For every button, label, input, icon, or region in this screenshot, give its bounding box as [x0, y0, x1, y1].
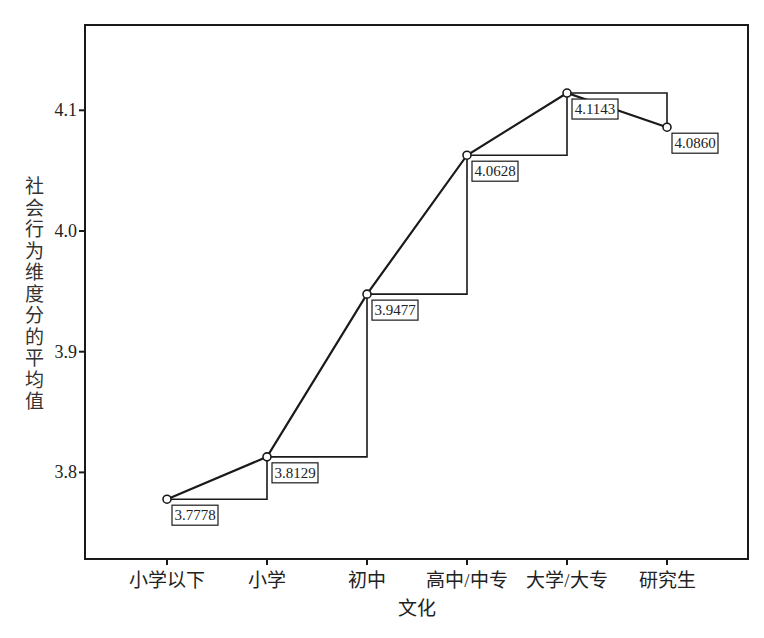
- y-axis: 3.83.94.04.1: [55, 100, 86, 482]
- x-tick-label: 研究生: [639, 570, 696, 591]
- plot-frame: [85, 25, 748, 559]
- data-line: [167, 93, 667, 499]
- data-point: [163, 495, 171, 503]
- data-points: [163, 89, 671, 503]
- svg-text:4.1143: 4.1143: [575, 101, 616, 117]
- data-point: [263, 453, 271, 461]
- x-tick-label: 小学以下: [129, 570, 205, 591]
- data-point: [363, 290, 371, 298]
- y-tick-label: 4.0: [55, 221, 78, 241]
- step-lines: [167, 93, 667, 499]
- data-label: 4.0860: [672, 133, 718, 153]
- data-label: 3.7778: [172, 505, 218, 525]
- data-point: [663, 123, 671, 131]
- data-label: 4.1143: [572, 99, 618, 119]
- svg-text:3.8129: 3.8129: [274, 465, 315, 481]
- y-tick-label: 3.9: [55, 342, 78, 362]
- y-axis-title: 社会行为维度分的平均值: [22, 176, 46, 413]
- svg-text:3.7778: 3.7778: [174, 507, 215, 523]
- y-tick-label: 3.8: [55, 462, 78, 482]
- data-label: 3.8129: [272, 463, 318, 483]
- y-tick-label: 4.1: [55, 100, 78, 120]
- x-tick-label: 高中/中专: [426, 570, 507, 591]
- svg-text:4.0628: 4.0628: [474, 163, 515, 179]
- x-axis: 小学以下小学初中高中/中专大学/大专研究生: [129, 559, 696, 591]
- x-tick-label: 初中: [348, 570, 386, 591]
- data-point: [563, 89, 571, 97]
- svg-text:4.0860: 4.0860: [674, 135, 715, 151]
- x-axis-title: 文化: [398, 598, 436, 619]
- line-chart: 3.83.94.04.1 小学以下小学初中高中/中专大学/大专研究生 3.777…: [0, 0, 764, 638]
- data-label: 4.0628: [472, 161, 518, 181]
- data-label: 3.9477: [372, 300, 418, 320]
- x-tick-label: 小学: [248, 570, 286, 591]
- svg-text:3.9477: 3.9477: [374, 302, 416, 318]
- data-point: [463, 151, 471, 159]
- x-tick-label: 大学/大专: [526, 570, 607, 591]
